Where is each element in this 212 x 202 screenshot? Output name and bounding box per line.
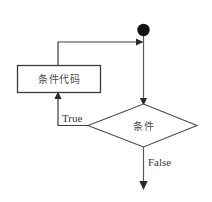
edge-label-false: False (148, 156, 171, 168)
flowchart-canvas: 条件代码 条件 True False (0, 0, 212, 202)
edge-label-true: True (62, 112, 82, 124)
arrow-head-false-out (139, 181, 147, 190)
edge-decision-false (139, 147, 147, 190)
process-box-label: 条件代码 (38, 73, 80, 85)
edge-start-to-decision (140, 36, 147, 106)
decision-diamond-label: 条件 (133, 120, 154, 132)
arrow-head-loop-return (136, 38, 144, 45)
start-node-circle (137, 24, 149, 36)
edge-process-to-loop (58, 38, 144, 65)
